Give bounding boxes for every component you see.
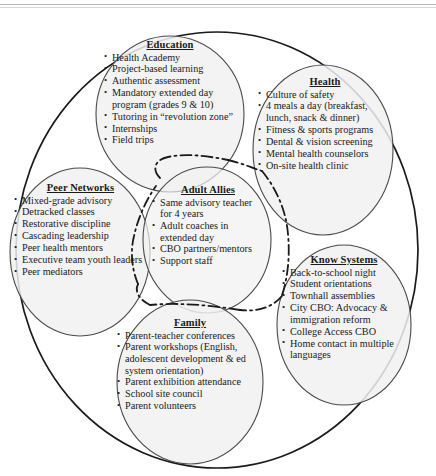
list-item: Dental & vision screening <box>258 136 392 148</box>
list-item: Peer health mentors <box>14 242 147 254</box>
cluster-peer-networks[interactable]: Peer Networks Mixed-grade advisory Detra… <box>14 182 147 278</box>
cluster-adult-allies-title: Adult Allies <box>152 184 264 196</box>
cluster-health-title: Health <box>258 76 392 88</box>
cluster-education-title: Education <box>104 39 236 51</box>
list-item: Peer mediators <box>14 266 147 278</box>
cluster-health-list: Culture of safety 4 meals a day (breakfa… <box>258 89 392 172</box>
list-item: CBO partners/mentors <box>152 243 264 255</box>
list-item: Home contact in multiple languages <box>282 338 406 361</box>
list-item: College Access CBO <box>282 326 406 338</box>
list-item: Health Academy <box>104 52 236 64</box>
list-item: City CBO: Advocacy & immigration reform <box>282 302 406 325</box>
diagram-page: Education Health Academy Project-based l… <box>0 0 436 476</box>
list-item: Executive team youth leaders <box>14 254 147 266</box>
list-item: Mixed-grade advisory <box>14 195 147 207</box>
list-item: Restorative discipline <box>14 218 147 230</box>
list-item: Back-to-school night <box>282 267 406 279</box>
list-item: Parent volunteers <box>117 400 263 412</box>
list-item: 4 meals a day (breakfast, lunch, snack &… <box>258 100 392 123</box>
cluster-education-list: Health Academy Project-based learning Au… <box>104 52 236 147</box>
list-item: Parent-teacher conferences <box>117 330 263 342</box>
cluster-know-systems-title: Know Systems <box>282 254 406 266</box>
list-item: Internships <box>104 123 236 135</box>
list-item: Project-based learning <box>104 63 236 75</box>
list-item: Mandatory extended day program (grades 9… <box>104 87 236 110</box>
list-item: Tutoring in “revolution zone” <box>104 111 236 123</box>
list-item: School site council <box>117 388 263 400</box>
list-item: Authentic assessment <box>104 75 236 87</box>
cluster-family[interactable]: Family Parent-teacher conferences Parent… <box>117 317 263 412</box>
cluster-health[interactable]: Health Culture of safety 4 meals a day (… <box>258 76 392 171</box>
list-item: Cascading leadership <box>14 230 147 242</box>
cluster-adult-allies[interactable]: Adult Allies Same advisory teacher for 4… <box>152 184 264 267</box>
list-item: Culture of safety <box>258 89 392 101</box>
cluster-know-systems-list: Back-to-school night Student orientation… <box>282 267 406 361</box>
list-item: Adult coaches in extended day <box>152 220 264 243</box>
list-item: Mental health counselors <box>258 148 392 160</box>
cluster-adult-allies-list: Same advisory teacher for 4 years Adult … <box>152 197 264 267</box>
cluster-peer-networks-list: Mixed-grade advisory Detracked classes R… <box>14 195 147 278</box>
list-item: Detracked classes <box>14 206 147 218</box>
cluster-family-list: Parent-teacher conferences Parent worksh… <box>117 330 263 412</box>
list-item: Same advisory teacher for 4 years <box>152 197 264 220</box>
list-item: Parent workshops (English, adolescent de… <box>117 341 263 376</box>
cluster-peer-networks-title: Peer Networks <box>14 182 147 194</box>
list-item: Townhall assemblies <box>282 290 406 302</box>
list-item: Student orientations <box>282 278 406 290</box>
cluster-family-title: Family <box>117 317 263 329</box>
cluster-education[interactable]: Education Health Academy Project-based l… <box>104 39 236 146</box>
list-item: Fitness & sports programs <box>258 124 392 136</box>
list-item: On-site health clinic <box>258 160 392 172</box>
list-item: Field trips <box>104 134 236 146</box>
list-item: Support staff <box>152 255 264 267</box>
list-item: Parent exhibition attendance <box>117 376 263 388</box>
cluster-know-systems[interactable]: Know Systems Back-to-school night Studen… <box>282 254 406 361</box>
